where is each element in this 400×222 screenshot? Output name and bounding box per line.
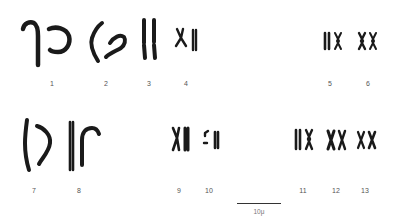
pair-label-12: 12: [332, 187, 340, 195]
chromosome-pair-11: [296, 130, 312, 149]
chromosome-pair-12: [328, 131, 345, 149]
pair-label-3: 3: [147, 80, 151, 88]
pair-label-10: 10: [205, 187, 213, 195]
chromosome-pair-6: [359, 33, 376, 49]
chromosome-pair-3: [144, 20, 155, 58]
chromosome-pair-10: [204, 131, 218, 148]
pair-label-1: 1: [50, 80, 54, 88]
pair-label-5: 5: [328, 80, 332, 88]
chromosome-pair-4: [176, 29, 196, 50]
scale-bar-label: 10μ: [254, 208, 265, 215]
pair-label-11: 11: [299, 187, 306, 195]
pair-label-13: 13: [361, 187, 369, 195]
chromosome-pair-9: [173, 128, 188, 150]
pair-label-4: 4: [184, 80, 188, 88]
pair-label-7: 7: [32, 187, 36, 195]
chromosome-pair-2: [91, 23, 125, 61]
pair-label-8: 8: [77, 187, 81, 195]
chromosome-pair-13: [358, 132, 375, 148]
pair-label-2: 2: [104, 80, 108, 88]
chromosome-pair-5: [325, 33, 341, 49]
pair-label-6: 6: [366, 80, 370, 88]
karyotype-figure: 1 2 3 4 5 6 7 8 9 10 11 12 13 10μ: [0, 0, 400, 222]
chromosome-pair-8: [70, 122, 99, 170]
scale-bar: [237, 203, 281, 204]
chromosome-pair-7: [25, 120, 50, 170]
pair-label-9: 9: [177, 187, 181, 195]
chromosome-pair-1: [23, 22, 69, 65]
